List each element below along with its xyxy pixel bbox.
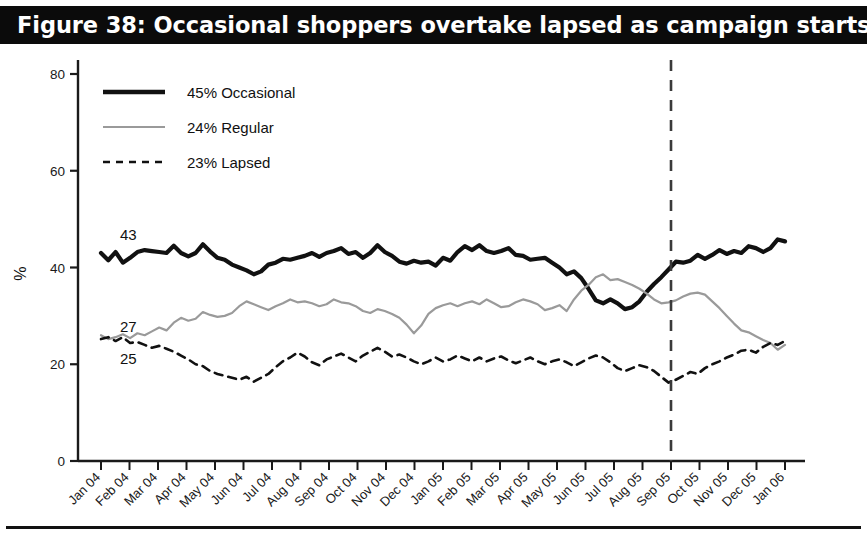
x-axis-tick-label: Jun 04 xyxy=(207,470,245,508)
line-chart-svg: 020406080%Jan 04Feb 04Mar 04Apr 04May 04… xyxy=(0,44,867,514)
chart-plot-area: 020406080%Jan 04Feb 04Mar 04Apr 04May 04… xyxy=(0,44,867,514)
legend-label-0: 45% Occasional xyxy=(187,84,295,101)
y-axis-tick-label: 20 xyxy=(50,357,65,372)
x-axis-tick-label: Jun 05 xyxy=(549,470,587,508)
start-value-label-regular: 27 xyxy=(120,318,137,335)
series-line-occasional xyxy=(101,239,785,309)
figure-title-banner: Figure 38: Occasional shoppers overtake … xyxy=(0,6,867,44)
series-line-lapsed xyxy=(101,337,785,382)
series-start-labels: 432725 xyxy=(120,226,137,367)
page-title: Figure 38: Occasional shoppers overtake … xyxy=(17,12,867,38)
legend-label-2: 23% Lapsed xyxy=(187,154,270,171)
y-axis-tick-label: 80 xyxy=(50,67,65,82)
x-axis-tick-label: Jan 06 xyxy=(749,470,787,508)
chart-series xyxy=(101,239,785,382)
y-axis-tick-label: 60 xyxy=(50,164,65,179)
y-axis-tick-label: 0 xyxy=(57,454,65,469)
y-axis-tick-label: 40 xyxy=(50,261,65,276)
start-value-label-lapsed: 25 xyxy=(120,350,137,367)
figure-container: Figure 38: Occasional shoppers overtake … xyxy=(0,0,867,538)
series-line-regular xyxy=(101,274,785,349)
y-axis-title: % xyxy=(12,266,29,280)
bottom-divider xyxy=(6,526,861,529)
chart-legend: 45% Occasional24% Regular23% Lapsed xyxy=(103,84,295,171)
start-value-label-occasional: 43 xyxy=(120,226,137,243)
legend-label-1: 24% Regular xyxy=(187,119,274,136)
